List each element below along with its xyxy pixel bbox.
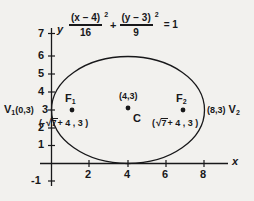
vertex-2-name: V: [229, 103, 236, 115]
y-tick-label-neg1: -1: [31, 175, 41, 186]
vertex-1-label: V1(0,3): [4, 104, 34, 116]
y-tick-label-6: 6: [38, 50, 44, 61]
focus-1-radicand: 7: [51, 118, 58, 128]
focus-1-coord-suffix: + 4 , 3 ): [58, 118, 89, 128]
center-coord-label: (4,3): [119, 92, 138, 101]
vertex-2-label: (8,3) V2: [207, 104, 240, 116]
x-tick-label-4: 4: [124, 169, 130, 180]
focus-1-coord-label: (-√7+ 4 , 3 ): [39, 118, 88, 128]
y-tick-label-4: 4: [38, 86, 44, 97]
focus-2-point: [181, 108, 186, 113]
vertex-2-coord: (8,3): [207, 105, 226, 115]
focus-1-name-label: F1: [65, 93, 76, 105]
focus-2-subscript: 2: [183, 98, 187, 105]
focus-2-name-label: F2: [176, 93, 187, 105]
focus-1-point: [70, 108, 75, 113]
center-name-label: C: [133, 113, 141, 124]
focus-1-subscript: 1: [72, 98, 76, 105]
focus-2-radical: √7: [155, 118, 168, 128]
vertex-2-subscript: 2: [236, 109, 240, 116]
y-tick-label-5: 5: [38, 68, 44, 79]
x-tick-label-6: 6: [162, 169, 168, 180]
y-axis-label: y: [57, 24, 63, 35]
focus-2-coord-label: (√7+ 4 , 3 ): [152, 118, 198, 128]
x-axis-label: x: [232, 156, 238, 167]
y-tick-label-7: 7: [38, 28, 44, 39]
focus-2-coord-suffix: + 4 , 3 ): [168, 118, 199, 128]
focus-2-radicand: 7: [161, 118, 168, 128]
y-tick-label-3: 3: [42, 104, 48, 115]
x-tick-label-8: 8: [200, 169, 206, 180]
x-tick-label-2: 2: [85, 169, 91, 180]
focus-1-name: F: [65, 92, 72, 104]
vertex-1-coord: (0,3): [15, 105, 34, 115]
focus-2-name: F: [176, 92, 183, 104]
focus-1-radical: √7: [45, 118, 58, 128]
y-tick-label-1: 1: [38, 139, 44, 150]
center-point: [126, 106, 131, 111]
ellipse-graph-figure: (x − 4) 16 2 + (y − 3) 9 2 = 1: [0, 0, 254, 201]
